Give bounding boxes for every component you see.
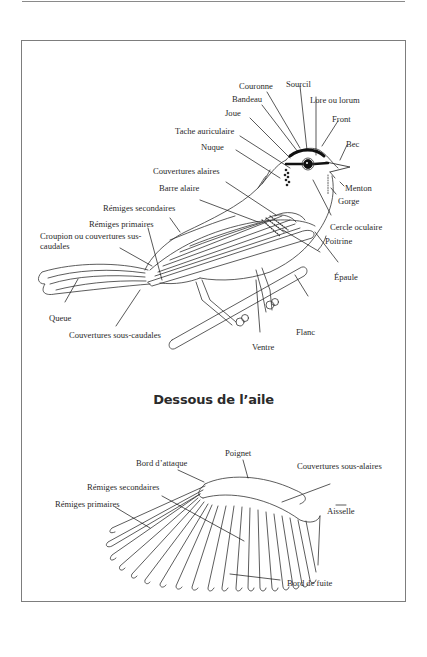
label-tache-auriculaire: Tache auriculaire bbox=[175, 126, 234, 136]
label-couvertures-sous-caudales: Couvertures sous-caudales bbox=[69, 330, 161, 340]
label-couvertures-sous-alaires: Couvertures sous-alaires bbox=[297, 461, 382, 471]
label-bord-fuite: Bord de fuite bbox=[287, 578, 332, 588]
label-bec: Bec bbox=[346, 139, 359, 149]
label-barre-alaire: Barre alaire bbox=[159, 183, 199, 193]
label-queue: Queue bbox=[49, 313, 71, 323]
label-couvertures-alaires: Couvertures alaires bbox=[153, 166, 220, 176]
label-croupion: Croupion ou couvertures sus-caudales bbox=[40, 231, 150, 251]
label-gorge: Gorge bbox=[338, 196, 359, 206]
label-remiges-secondaires-aile: Rémiges secondaires bbox=[87, 482, 159, 492]
label-couronne: Couronne bbox=[239, 81, 273, 91]
label-lore: Lore ou lorum bbox=[310, 95, 360, 105]
label-nuque: Nuque bbox=[201, 142, 224, 152]
label-bandeau: Bandeau bbox=[232, 94, 262, 104]
label-epaule: Épaule bbox=[334, 272, 358, 282]
label-remiges-primaires: Rémiges primaires bbox=[89, 219, 154, 229]
label-flanc: Flanc bbox=[296, 327, 315, 337]
label-aisselle: Aisselle bbox=[327, 506, 355, 516]
label-menton: Menton bbox=[345, 183, 372, 193]
wing-underside bbox=[106, 460, 346, 591]
label-front: Front bbox=[332, 114, 351, 124]
label-remiges-primaires-aile: Rémiges primaires bbox=[55, 499, 120, 509]
label-cercle-oculaire: Cercle oculaire bbox=[330, 222, 382, 232]
wing-section-title: Dessous de l’aile bbox=[0, 392, 427, 407]
label-bord-attaque: Bord d’attaque bbox=[136, 458, 187, 468]
label-poignet: Poignet bbox=[225, 448, 251, 458]
label-poitrine: Poitrine bbox=[325, 236, 352, 246]
label-remiges-secondaires: Rémiges secondaires bbox=[103, 203, 175, 213]
bird-illustration bbox=[0, 0, 427, 657]
label-ventre: Ventre bbox=[252, 342, 274, 352]
head-markings bbox=[284, 150, 328, 195]
label-sourcil: Sourcil bbox=[286, 79, 311, 89]
label-joue: Joue bbox=[225, 108, 241, 118]
